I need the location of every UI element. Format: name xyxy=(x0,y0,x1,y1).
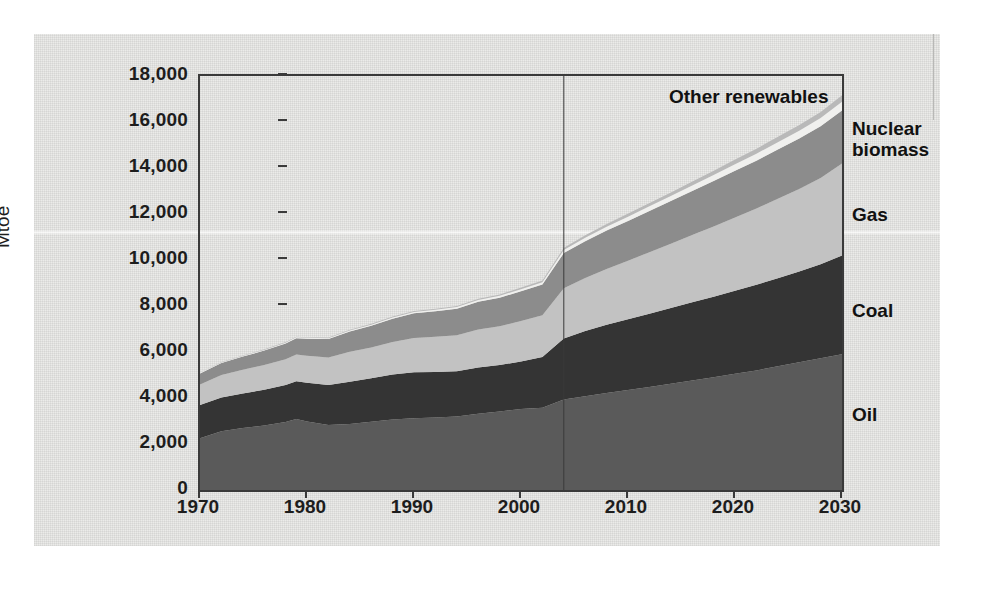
figure-root: 02,0004,0006,0008,00010,00012,00014,0001… xyxy=(0,0,1008,593)
x-tick-label: 2030 xyxy=(819,496,861,518)
x-axis-labels: 1970198019902000201020202030 xyxy=(198,496,840,530)
stacked-area-chart xyxy=(200,76,842,490)
x-tick-label: 2000 xyxy=(498,496,540,518)
y-axis-labels: 02,0004,0006,0008,00010,00012,00014,0001… xyxy=(88,74,188,488)
plot-inner xyxy=(200,76,842,490)
x-tick-mark xyxy=(626,490,628,498)
y-tick-label: 16,000 xyxy=(129,109,188,131)
x-tick-mark xyxy=(519,490,521,498)
other-renewables-label: Other renewables xyxy=(669,86,828,108)
series-label-coal: Coal xyxy=(852,300,893,321)
y-tick-label: 2,000 xyxy=(139,431,188,453)
x-tick-label: 2020 xyxy=(712,496,754,518)
series-label-gas: Gas xyxy=(852,204,888,225)
plot-area xyxy=(198,74,844,492)
x-tick-label: 1980 xyxy=(284,496,326,518)
series-label-line1: Nuclear xyxy=(852,118,929,139)
y-tick-label: 8,000 xyxy=(139,293,188,315)
series-label-oil: Oil xyxy=(852,404,877,425)
y-tick-label: 12,000 xyxy=(129,201,188,223)
series-label-line1: Coal xyxy=(852,300,893,321)
x-tick-mark xyxy=(412,490,414,498)
x-tick-mark xyxy=(198,490,200,498)
x-tick-label: 2010 xyxy=(605,496,647,518)
series-label-nuclear-biomass: Nuclearbiomass xyxy=(852,118,929,161)
y-axis-title: Mtoe xyxy=(0,206,14,248)
x-tick-mark xyxy=(840,490,842,498)
scan-edge-line xyxy=(933,34,934,120)
y-tick-label: 18,000 xyxy=(129,63,188,85)
series-label-line2: biomass xyxy=(852,139,929,160)
y-tick-label: 14,000 xyxy=(129,155,188,177)
series-label-line1: Oil xyxy=(852,404,877,425)
y-tick-label: 10,000 xyxy=(129,247,188,269)
x-tick-label: 1970 xyxy=(177,496,219,518)
y-tick-label: 4,000 xyxy=(139,385,188,407)
y-tick-label: 6,000 xyxy=(139,339,188,361)
x-tick-mark xyxy=(305,490,307,498)
x-tick-label: 1990 xyxy=(391,496,433,518)
series-label-line1: Gas xyxy=(852,204,888,225)
x-tick-mark xyxy=(733,490,735,498)
